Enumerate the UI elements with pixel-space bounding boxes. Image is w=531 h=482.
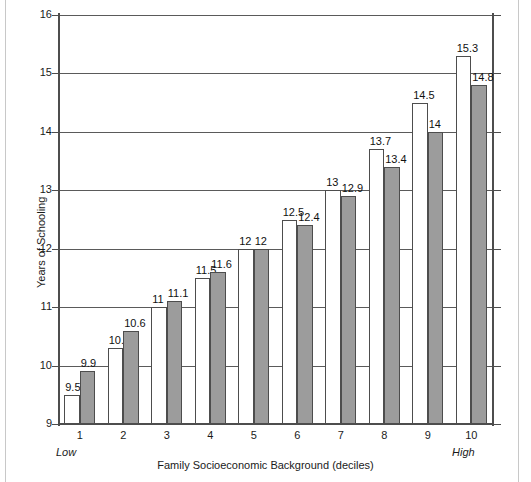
bar-open — [369, 149, 385, 424]
x-tick-label: 3 — [152, 429, 182, 441]
x-tick-label: 6 — [282, 429, 312, 441]
bar-filled — [123, 331, 139, 424]
bar-value-label: 13.4 — [385, 154, 406, 165]
bar-open — [238, 249, 254, 424]
y-tick-label: 10 — [26, 360, 52, 371]
x-axis-title: Family Socioeconomic Background (deciles… — [0, 459, 531, 471]
y-tick-label: 14 — [26, 126, 52, 137]
y-axis-tick-right — [494, 73, 501, 74]
y-axis-tick-right — [494, 249, 501, 250]
bar-open — [151, 307, 167, 424]
bar-filled — [297, 225, 313, 424]
bar-value-label: 14 — [429, 119, 441, 130]
bar-open — [282, 220, 298, 425]
y-axis-tick-right — [494, 424, 501, 425]
bar-value-label: 14.8 — [472, 72, 493, 83]
bar-value-label: 13 — [326, 177, 338, 188]
x-axis-low-label: Low — [56, 446, 76, 458]
x-tick-label: 1 — [65, 429, 95, 441]
bars-layer: 9.59.910.310.61111.111.511.6121212.512.4… — [58, 15, 493, 424]
bar-open — [412, 103, 428, 424]
bar-filled — [210, 272, 226, 424]
bar-value-label: 9.9 — [81, 358, 96, 369]
y-tick-label: 15 — [26, 67, 52, 78]
x-axis-high-label: High — [452, 446, 475, 458]
bar-value-label: 9.5 — [65, 382, 80, 393]
bar-filled — [167, 301, 183, 424]
page-border-right — [518, 0, 519, 482]
x-tick-label: 8 — [369, 429, 399, 441]
chart-figure: 161514131211109 9.59.910.310.61111.111.5… — [0, 0, 531, 482]
page-border-left — [5, 0, 6, 482]
bar-value-label: 12 — [239, 236, 251, 247]
bar-open — [108, 348, 124, 424]
y-tick-label: 16 — [26, 9, 52, 20]
bar-open — [325, 190, 341, 424]
y-tick-label: 13 — [26, 184, 52, 195]
bar-value-label: 11.6 — [211, 259, 232, 270]
bar-value-label: 10.6 — [124, 318, 145, 329]
bar-value-label: 11 — [152, 294, 163, 305]
x-tick-label: 10 — [456, 429, 486, 441]
plot-area: 9.59.910.310.61111.111.511.6121212.512.4… — [58, 15, 493, 424]
bar-value-label: 11.1 — [168, 288, 189, 299]
x-tick-label: 9 — [413, 429, 443, 441]
bar-filled — [254, 249, 270, 424]
y-tick-label: 11 — [26, 301, 52, 312]
bar-value-label: 13.7 — [370, 136, 391, 147]
bar-value-label: 12.4 — [298, 212, 319, 223]
y-axis-title: Years of Schooling — [35, 197, 47, 288]
bar-filled — [341, 196, 357, 424]
y-tick-label: 9 — [26, 418, 52, 429]
x-tick-label: 2 — [108, 429, 138, 441]
y-axis-tick-right — [494, 15, 501, 16]
x-tick-label: 4 — [195, 429, 225, 441]
y-axis-tick-right — [494, 132, 501, 133]
bar-value-label: 12.9 — [342, 183, 363, 194]
bar-value-label: 12 — [255, 236, 267, 247]
bar-filled — [80, 371, 96, 424]
bar-open — [456, 56, 472, 424]
bar-filled — [384, 167, 400, 424]
bar-open — [64, 395, 80, 424]
x-tick-label: 7 — [326, 429, 356, 441]
bar-filled — [471, 85, 487, 424]
y-axis-tick-right — [494, 307, 501, 308]
bar-filled — [428, 132, 444, 424]
bar-value-label: 14.5 — [413, 90, 434, 101]
bar-value-label: 15.3 — [457, 43, 478, 54]
x-tick-label: 5 — [239, 429, 269, 441]
bar-open — [195, 278, 211, 424]
y-axis-tick-right — [494, 190, 501, 191]
y-axis-tick-right — [494, 366, 501, 367]
